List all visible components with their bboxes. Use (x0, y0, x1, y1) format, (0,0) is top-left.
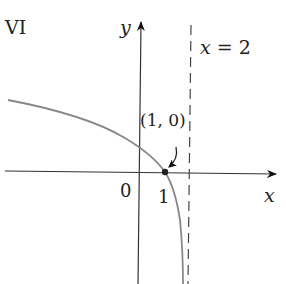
y-axis (138, 22, 141, 284)
asymptote-label: x = 2 (200, 36, 251, 58)
annotation-arrow (169, 147, 177, 167)
asymptote-label-rest: = 2 (211, 36, 251, 58)
panel-label: VI (5, 16, 26, 38)
asymptote-label-var: x (200, 36, 211, 58)
tick-label-1: 1 (158, 186, 169, 207)
asymptote-line (188, 25, 191, 284)
x-axis (5, 171, 276, 174)
x-axis-label: x (264, 184, 275, 206)
origin-label: 0 (120, 180, 131, 201)
graph-figure: VI y x x = 2 (1, 0) 0 1 (0, 0, 286, 284)
point-1-0 (162, 169, 168, 175)
y-axis-label: y (120, 16, 131, 38)
point-label: (1, 0) (140, 110, 186, 130)
